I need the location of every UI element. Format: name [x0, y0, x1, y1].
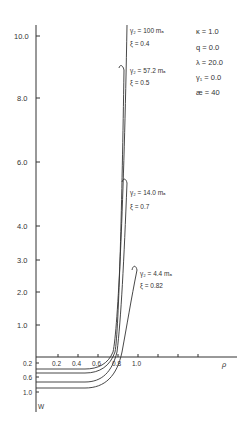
y-tick-1: 1.0 — [17, 321, 27, 330]
x-axis-label: ρ — [221, 360, 227, 369]
curves — [36, 25, 137, 388]
y-tick-10: 10.0 — [14, 32, 29, 41]
y-tick-3: 3.0 — [17, 256, 27, 265]
svg-text:ξ = 0.82: ξ = 0.82 — [140, 282, 163, 290]
w-tick-0.6: 0.6 — [23, 374, 32, 381]
param-gamma1: γ₁ = 0.0 — [196, 73, 221, 82]
w-axis-label: W — [38, 403, 45, 410]
svg-text:0.2: 0.2 — [52, 360, 61, 367]
svg-text:0.4: 0.4 — [72, 360, 81, 367]
w-tick-0.2: 0.2 — [23, 360, 32, 367]
svg-text:γ₂ = 4.4 mₐ: γ₂ = 4.4 mₐ — [140, 270, 172, 278]
y-tick-6: 6.0 — [17, 158, 27, 167]
y-tick-2: 2.0 — [17, 288, 27, 297]
param-kappa: κ = 1.0 — [196, 27, 219, 36]
svg-text:γ₂ = 14.0 mₐ: γ₂ = 14.0 mₐ — [130, 189, 166, 197]
svg-text:γ₂ = 100 mₐ: γ₂ = 100 mₐ — [130, 27, 164, 35]
y-ticks-lower: 0.2 0.6 1.0 W — [23, 360, 45, 410]
parameters-legend: κ = 1.0 q = 0.0 λ = 20.0 γ₁ = 0.0 æ = 40 — [196, 27, 223, 97]
svg-text:γ₂ = 57.2 mₐ: γ₂ = 57.2 mₐ — [130, 67, 166, 75]
param-ae: æ = 40 — [196, 88, 220, 97]
y-tick-8: 8.0 — [17, 94, 27, 103]
chart: 10.0 8.0 6.0 4.0 3.0 2.0 1.0 0.2 0.6 1.0… — [0, 0, 251, 429]
curve-gamma2-57 — [36, 70, 124, 373]
series-labels: γ₂ = 100 mₐ ξ = 0.4 γ₂ = 57.2 mₐ ξ = 0.5… — [130, 27, 172, 290]
svg-text:ξ = 0.7: ξ = 0.7 — [130, 203, 150, 211]
svg-text:ξ = 0.5: ξ = 0.5 — [130, 79, 150, 87]
svg-text:1.0: 1.0 — [132, 360, 141, 367]
svg-text:ξ = 0.4: ξ = 0.4 — [130, 40, 150, 48]
param-q: q = 0.0 — [196, 43, 219, 52]
param-lambda: λ = 20.0 — [196, 58, 223, 67]
w-tick-1.0: 1.0 — [23, 389, 32, 396]
y-tick-4: 4.0 — [17, 222, 27, 231]
curve-gamma2-100 — [36, 25, 127, 369]
x-ticks: 0.2 0.4 0.6 0.8 1.0 ρ — [52, 354, 227, 369]
